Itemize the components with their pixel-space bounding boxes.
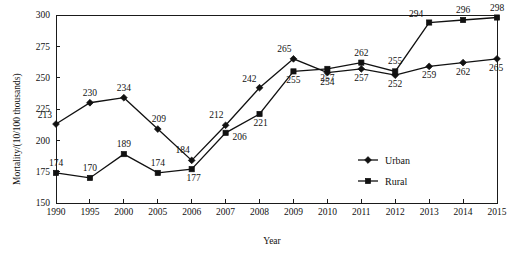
data-point-rural xyxy=(155,170,160,175)
data-point-rural xyxy=(223,130,228,135)
legend-marker-urban xyxy=(365,157,372,164)
data-point-rural xyxy=(325,66,330,71)
data-label-rural: 221 xyxy=(253,118,268,128)
data-label-urban: 212 xyxy=(209,110,224,120)
x-axis-title-label: Year xyxy=(263,236,281,246)
data-label-urban: 259 xyxy=(422,70,437,80)
data-label-rural: 174 xyxy=(49,158,64,168)
data-label-rural: 255 xyxy=(388,56,403,66)
x-tick-label: 2008 xyxy=(250,207,269,217)
data-label-urban: 209 xyxy=(152,114,167,124)
data-label-rural: 298 xyxy=(490,3,505,13)
mortality-line-chart: Mortality/(10/100 thousands) 15017520022… xyxy=(0,0,512,254)
data-point-rural xyxy=(87,175,92,180)
data-point-rural xyxy=(189,167,194,172)
x-tick-label: 2011 xyxy=(352,207,371,217)
x-tick-label: 2000 xyxy=(114,207,133,217)
data-point-rural xyxy=(494,15,499,20)
x-tick-label: 2006 xyxy=(182,207,201,217)
x-tick-label: 1995 xyxy=(80,207,99,217)
y-tick-label: 275 xyxy=(36,42,51,52)
y-axis-title-label: Mortality/(10/100 thousands) xyxy=(12,73,23,185)
x-tick-label: 1990 xyxy=(47,207,66,217)
data-label-rural: 177 xyxy=(187,173,202,183)
legend: UrbanRural xyxy=(358,155,410,187)
x-tick-label: 2007 xyxy=(216,207,235,217)
x-tick-label: 2015 xyxy=(488,207,507,217)
data-point-rural xyxy=(53,170,58,175)
x-tick-label: 2013 xyxy=(420,207,439,217)
data-label-rural: 296 xyxy=(456,5,471,15)
data-label-urban: 234 xyxy=(117,83,132,93)
data-label-rural: 257 xyxy=(320,73,335,83)
data-point-rural xyxy=(359,60,364,65)
data-label-rural: 174 xyxy=(151,158,166,168)
legend-marker-rural xyxy=(365,178,370,183)
data-label-urban: 262 xyxy=(456,67,471,77)
data-point-urban xyxy=(87,99,94,106)
data-label-urban: 265 xyxy=(277,44,292,54)
data-point-rural xyxy=(427,20,432,25)
y-tick-label: 200 xyxy=(36,136,51,146)
data-point-rural xyxy=(121,152,126,157)
data-label-urban: 252 xyxy=(388,79,403,89)
chart-page: Mortality/(10/100 thousands) 15017520022… xyxy=(0,0,512,254)
x-tick-label: 2009 xyxy=(284,207,303,217)
data-point-rural xyxy=(291,69,296,74)
legend-label-urban: Urban xyxy=(385,155,410,166)
x-tick-label: 2014 xyxy=(454,207,473,217)
data-labels-layer: 2132302342091842122422652542572522592622… xyxy=(38,3,505,184)
data-label-rural: 170 xyxy=(83,163,98,173)
data-point-urban xyxy=(358,65,365,72)
data-point-rural xyxy=(393,69,398,74)
data-point-urban xyxy=(494,55,501,62)
y-tick-label: 175 xyxy=(36,167,51,177)
data-point-urban xyxy=(460,59,467,66)
series-layer xyxy=(53,15,501,181)
data-label-rural: 206 xyxy=(233,132,248,142)
data-label-rural: 262 xyxy=(354,48,369,58)
data-point-rural xyxy=(460,17,465,22)
data-point-urban xyxy=(426,63,433,70)
y-tick-label: 300 xyxy=(36,10,51,20)
x-tick-group: 1990199520002005200620072008200920102011… xyxy=(47,199,507,217)
data-label-rural: 255 xyxy=(286,75,301,85)
y-tick-label: 250 xyxy=(36,73,51,83)
x-tick-label: 2012 xyxy=(386,207,405,217)
data-point-urban xyxy=(53,121,60,128)
y-axis-title: Mortality/(10/100 thousands) xyxy=(12,73,23,185)
data-label-urban: 257 xyxy=(354,73,369,83)
x-axis-title: Year xyxy=(263,236,281,246)
x-tick-label: 2010 xyxy=(318,207,337,217)
data-point-rural xyxy=(257,111,262,116)
data-label-rural: 294 xyxy=(409,9,424,19)
legend-label-rural: Rural xyxy=(385,176,407,187)
data-label-urban: 213 xyxy=(38,110,53,120)
data-label-urban: 265 xyxy=(489,63,504,73)
data-label-urban: 230 xyxy=(83,88,98,98)
x-tick-label: 2005 xyxy=(148,207,167,217)
data-label-urban: 184 xyxy=(175,145,190,155)
data-label-rural: 189 xyxy=(117,139,132,149)
data-label-urban: 242 xyxy=(242,74,257,84)
